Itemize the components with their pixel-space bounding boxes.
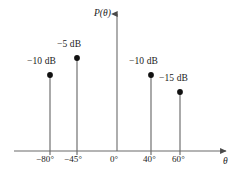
y-axis-label: P(θ) bbox=[94, 9, 111, 19]
value-label-minus80: −10 dB bbox=[27, 57, 56, 67]
x-axis-label: θ bbox=[223, 157, 228, 167]
stem-minus80 bbox=[47, 72, 53, 155]
stem-marker bbox=[177, 89, 183, 95]
stem-plus60 bbox=[177, 89, 183, 155]
stem-minus45 bbox=[74, 55, 80, 155]
value-label-minus45: −5 dB bbox=[57, 40, 81, 50]
stem-plus40 bbox=[148, 72, 154, 155]
x-tick-label-minus80: −80° bbox=[36, 155, 54, 164]
plot-canvas bbox=[0, 0, 248, 175]
x-tick-label-plus60: 60° bbox=[172, 155, 185, 164]
value-label-plus60: −15 dB bbox=[159, 74, 188, 84]
x-tick-label-minus45: −45° bbox=[64, 155, 82, 164]
x-tick-label-plus40: 40° bbox=[143, 155, 156, 164]
stem-marker bbox=[47, 72, 53, 78]
x-tick-label-zero: 0° bbox=[110, 155, 118, 164]
value-label-plus40: −10 dB bbox=[129, 57, 158, 67]
stem-marker bbox=[74, 55, 80, 61]
stem-marker bbox=[148, 72, 154, 78]
stem-plot-figure: P(θ) θ −10 dB −5 dB −10 dB −15 dB −80° −… bbox=[0, 0, 248, 175]
